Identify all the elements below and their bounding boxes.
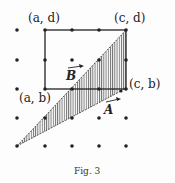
figure: B A (a, d) (c, d) (a, b) (c, b) Fig. 3	[0, 0, 175, 183]
label-a-b: (a, b)	[19, 91, 51, 105]
label-c-d: (c, d)	[114, 11, 145, 25]
label-a-d: (a, d)	[28, 11, 60, 25]
label-c-b: (c, b)	[129, 77, 160, 91]
figure-caption: Fig. 3	[74, 166, 101, 176]
lattice-diagram: B A (a, d) (c, d) (a, b) (c, b) Fig. 3	[0, 0, 175, 183]
vector-b-label: B	[65, 69, 76, 83]
vector-b-arrow-icon	[68, 64, 84, 68]
vector-a-label: A	[103, 103, 113, 117]
